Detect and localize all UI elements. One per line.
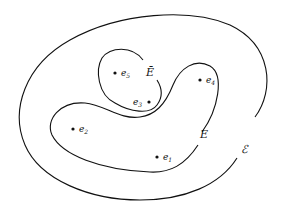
outer-curve	[19, 15, 267, 200]
point-e3	[147, 100, 150, 103]
label-e4: e4	[206, 75, 215, 86]
label-e2: e2	[79, 124, 88, 135]
point-e1	[155, 155, 158, 158]
point-e5	[113, 71, 116, 74]
point-e2	[71, 127, 74, 130]
inner-curve	[98, 49, 161, 111]
set-diagram: e1 e2 e3 e4 e5 Ē E ℰ	[0, 0, 287, 215]
label-e3: e3	[133, 97, 142, 108]
label-outer: ℰ	[241, 143, 249, 156]
label-E: E	[199, 128, 208, 141]
middle-curve	[50, 63, 218, 172]
label-e1: e1	[163, 152, 172, 163]
label-Ebar: Ē	[145, 66, 154, 79]
point-e4	[198, 78, 201, 81]
label-e5: e5	[121, 68, 130, 79]
